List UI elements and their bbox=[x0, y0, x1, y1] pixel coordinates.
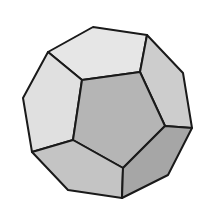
dodecahedron-illustration bbox=[0, 0, 208, 215]
